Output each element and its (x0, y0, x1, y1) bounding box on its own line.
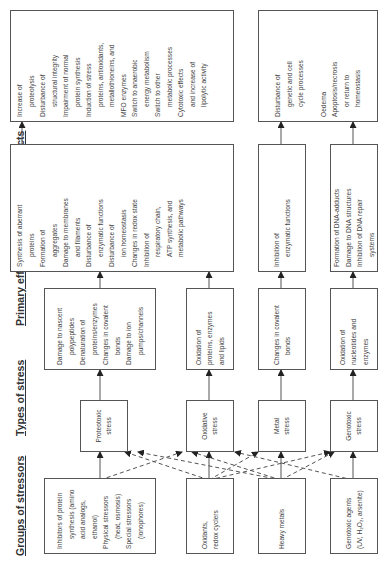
tertiary-effect-line: lipolytic activity (198, 15, 210, 117)
secondary-effects-metal: Inhibition of enzymatic functions (258, 144, 306, 272)
primary-effects-oxidative: Oxidation of proteins, enzymes and lipid… (186, 288, 234, 370)
stressor-box-oxidants: Oxidants, redox cyclers (186, 478, 234, 554)
secondary-effects-proteotoxic-oxidative: Synthesis of aberrant proteins Formation… (10, 144, 234, 272)
secondary-effect-line: systems (366, 149, 378, 267)
tertiary-effects-metal-genotoxic: Disturbance of genetic and cell cycle pr… (258, 10, 378, 122)
secondary-effect-line: ion homeostasis (118, 149, 130, 267)
tertiary-effect-line: Increase of (14, 15, 26, 117)
stressor-box-protein-synthesis-inhibitors: Inhibitors of protein synthesis (amino a… (44, 478, 156, 554)
secondary-effect-line: Inhibition of DNA repair (354, 149, 366, 267)
secondary-effects-genotoxic: Formation of DNA-adducts Damage to DNA s… (330, 144, 378, 272)
tertiary-effect-line: proteins, antioxidants, (95, 15, 107, 117)
tertiary-effect-line: Oedema (318, 15, 330, 117)
stressor-line: (ionophores) (135, 483, 147, 549)
tertiary-effect-line: MFO enzymes (118, 15, 130, 117)
tertiary-effect-line: Disturbance of (37, 15, 49, 117)
stress-type-genotoxic: Genotoxicstress (330, 400, 378, 452)
stress-type-label: stress (354, 411, 364, 441)
primary-effect-line: nucleotides and (348, 293, 360, 365)
stressor-line: redox cyclers (210, 483, 222, 549)
stressor-line: acid analogs, (77, 483, 89, 549)
secondary-effect-line: respiratory chain, (152, 149, 164, 267)
stress-effects-diagram: Groups of stressors Types of stress Prim… (0, 0, 390, 566)
primary-effect-line: Changes in covalent (100, 293, 112, 365)
stress-type-label: Oxidative (200, 412, 210, 440)
primary-effects-proteotoxic: Damage to nascent polypeptides Denaturat… (44, 288, 156, 370)
primary-effect-line: and lipids (216, 293, 228, 365)
stress-type-label: stress (104, 410, 114, 443)
primary-effect-line: Denaturation of (77, 293, 89, 365)
primary-effect-line: Changes in covalent (271, 293, 283, 365)
tertiary-effects-proteotoxic-oxidative: Increase of proteolysis Disturbance of s… (10, 10, 234, 122)
primary-effects-metal: Changes in covalent bonds (258, 288, 306, 370)
tertiary-effect-line: or return to (341, 15, 353, 117)
tertiary-effect-line: metallothioneins, and (106, 15, 118, 117)
stress-type-metal: Metalstress (258, 400, 306, 452)
tertiary-effect-line: energy metabolism (141, 15, 153, 117)
secondary-effect-line: enzymatic functions (282, 149, 294, 267)
stress-type-label: Genotoxic (344, 411, 354, 441)
primary-effects-genotoxic: Oxidation of nucleotides and enzymes (330, 288, 378, 370)
tertiary-effect-line: cycle processes (295, 15, 307, 117)
tertiary-effect-line: Cytotoxic effects (175, 15, 187, 117)
secondary-effect-line: ATP synthesis, and (164, 149, 176, 267)
stressor-box-genotoxic-agents: Genotoxic agents (UV, H₂O₂, arsenite) (330, 478, 378, 554)
stressor-line: (heat, osmosis) (112, 483, 124, 549)
stress-type-label: Proteotoxic (94, 410, 104, 443)
primary-effect-line: Oxidation of (193, 293, 205, 365)
secondary-effect-line: Disturbance of (83, 149, 95, 267)
stress-type-label: stress (210, 412, 220, 440)
secondary-effect-line: Disturbance of (106, 149, 118, 267)
primary-effect-line: proteins/enzymes (89, 293, 101, 365)
secondary-effect-line: aggregates (49, 149, 61, 267)
primary-effect-line: Damage to nascent (54, 293, 66, 365)
secondary-effect-line: Inhibition of (271, 149, 283, 267)
secondary-effect-line: Inhibition of (141, 149, 153, 267)
primary-effect-line: Oxidation of (337, 293, 349, 365)
stressor-line: Heavy metals (276, 483, 288, 549)
primary-effect-line: pumps/channels (135, 293, 147, 365)
stressor-line: (UV, H₂O₂, arsenite) (354, 483, 366, 549)
tertiary-effect-line: structural integrity (49, 15, 61, 117)
secondary-effect-line: Damage to membranes (60, 149, 72, 267)
stressor-box-heavy-metals: Heavy metals (258, 478, 306, 554)
stress-type-label: stress (282, 417, 292, 435)
tertiary-effect-line: proteolysis (26, 15, 38, 117)
column-header-types-of-stress: Types of stress (14, 360, 26, 436)
stressor-line: Special stressors (123, 483, 135, 549)
tertiary-effect-line: metabolic processes (164, 15, 176, 117)
secondary-effect-line: proteins (26, 149, 38, 267)
stress-type-oxidative: Oxidativestress (186, 400, 234, 452)
secondary-effect-line: metabolic pathways (175, 149, 187, 267)
tertiary-effect-line: Apoptosis/necrosis (329, 15, 341, 117)
stressor-line: ethanol) (89, 483, 101, 549)
secondary-effect-line: Formation of DNA-adducts (331, 149, 343, 267)
tertiary-effect-line: homeostasis (352, 15, 364, 117)
secondary-effect-line: Synthesis of aberrant (14, 149, 26, 267)
stressor-line: Physical stressors (100, 483, 112, 549)
tertiary-effect-line: Switch to other (152, 15, 164, 117)
stressor-line: Oxidants, (199, 483, 211, 549)
secondary-effect-line: Formation of (37, 149, 49, 267)
stressor-line: Inhibitors of protein (54, 483, 66, 549)
tertiary-effect-line: genetic and cell (284, 15, 296, 117)
primary-effect-line: bonds (112, 293, 124, 365)
primary-effect-line: Damage to ion (123, 293, 135, 365)
stress-type-proteotoxic: Proteotoxicstress (80, 400, 128, 452)
tertiary-effect-line (307, 15, 318, 117)
primary-effect-line: polypeptides (66, 293, 78, 365)
tertiary-effect-line: Disturbance of (272, 15, 284, 117)
primary-effect-line: bonds (282, 293, 294, 365)
tertiary-effect-line: protein synthesis (72, 15, 84, 117)
secondary-effect-line: Damage to DNA structures (343, 149, 355, 267)
primary-effect-line: proteins, enzymes (204, 293, 216, 365)
secondary-effect-line: Changes in redox state (129, 149, 141, 267)
primary-effect-line: enzymes (360, 293, 372, 365)
tertiary-effect-line: and increase of (187, 15, 199, 117)
secondary-effect-line: and filaments (72, 149, 84, 267)
column-header-groups-of-stressors: Groups of stressors (14, 456, 26, 556)
stressor-line: Genotoxic agents (343, 483, 355, 549)
stress-type-label: Metal (272, 417, 282, 435)
tertiary-effect-line: Induction of stress (83, 15, 95, 117)
tertiary-effect-line: Switch to anaerobic (129, 15, 141, 117)
